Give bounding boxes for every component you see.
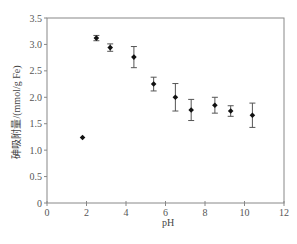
y-tick-label: 3.0 (30, 39, 43, 50)
x-tick-label: 12 (279, 207, 289, 218)
diamond-marker (151, 81, 157, 87)
x-tick-label: 2 (84, 207, 89, 218)
y-tick-label: 1.5 (30, 118, 43, 129)
y-tick-label: 2.0 (30, 92, 43, 103)
diamond-marker (107, 45, 113, 51)
plot-border (47, 18, 284, 203)
y-axis-ticks: 00.51.01.52.02.53.03.5 (30, 13, 48, 209)
x-tick-label: 10 (240, 207, 250, 218)
plot-frame (47, 18, 284, 203)
diamond-marker (80, 135, 86, 141)
x-axis-title: pH (162, 217, 174, 228)
diamond-marker (94, 35, 100, 41)
y-tick-label: 0 (37, 198, 42, 209)
x-tick-label: 8 (203, 207, 208, 218)
y-axis-title: 砷吸附量/(mmol/g Fe) (10, 65, 23, 158)
diamond-marker (228, 108, 234, 114)
data-points (80, 35, 256, 140)
x-axis-ticks: 024681012 (45, 201, 290, 218)
x-tick-label: 0 (45, 207, 50, 218)
y-tick-label: 0.5 (30, 171, 43, 182)
x-tick-label: 4 (124, 207, 129, 218)
diamond-marker (173, 94, 179, 100)
diamond-marker (212, 102, 218, 108)
scatter-chart: 00.51.01.52.02.53.03.5 024681012 pH 砷吸附量… (0, 0, 297, 244)
y-tick-label: 2.5 (30, 65, 43, 76)
y-tick-label: 3.5 (30, 13, 43, 24)
diamond-marker (250, 112, 256, 118)
diamond-marker (131, 54, 137, 60)
diamond-marker (188, 107, 194, 113)
y-tick-label: 1.0 (30, 145, 43, 156)
